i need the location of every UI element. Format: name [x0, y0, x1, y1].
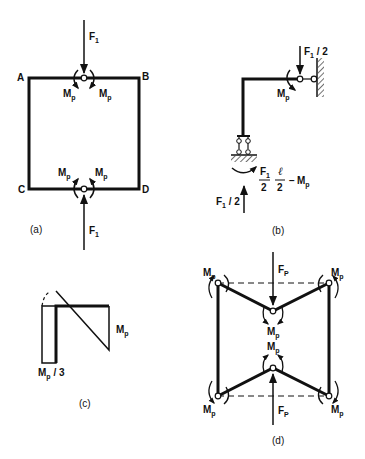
moment-label-bottom-right-d: Mp [331, 404, 344, 418]
moment-label-b: Mp [277, 88, 290, 102]
moment-label-center-bottom-d: Mp [267, 341, 280, 355]
label-mp-c: Mp [116, 324, 129, 338]
svg-text:F1: F1 [260, 166, 270, 179]
caption-c: (c) [79, 398, 91, 409]
corner-arc [42, 292, 50, 306]
moment-label-center-top-d: Mp [267, 326, 280, 340]
load-top-label: F1 [89, 31, 99, 44]
hinge-top-right [326, 280, 332, 286]
frame-c [56, 306, 109, 363]
beam-moment-diagram [56, 291, 109, 350]
hinge-bottom-right [326, 393, 332, 399]
node-c-label: C [18, 184, 25, 195]
moment-label-bottom-left-d: Mp [203, 404, 216, 418]
svg-text:2: 2 [261, 182, 267, 193]
column-moment-diagram [42, 306, 56, 363]
load-label-bottom-d: FP [278, 405, 289, 418]
base-moment-expression: F1 2 ℓ 2 − Mp [259, 165, 310, 193]
caption-b: (b) [272, 225, 284, 236]
roller-wall [311, 76, 317, 82]
moment-label-bottom-left: Mp [58, 167, 71, 181]
load-bottom-label: F1 [89, 225, 99, 238]
hinge-top-center [270, 308, 276, 314]
panel-c: Mp Mp / 3 (c) [38, 291, 129, 409]
wall-hatch [318, 58, 324, 97]
hinge-bottom-left [215, 393, 221, 399]
figure-canvas: F1 Mp Mp A B C D Mp Mp F1 (a) F1 / 2 [0, 0, 365, 459]
reaction-label-b: F1 / 2 [216, 196, 240, 209]
node-a-label: A [17, 72, 24, 83]
load-label-top-d: FP [278, 264, 289, 277]
moment-label-top-left: Mp [63, 88, 76, 102]
hinge-bottom-center [270, 365, 276, 371]
panel-d: FP FP Mp Mp Mp Mp Mp Mp (d) [203, 252, 344, 446]
sliding-support [231, 136, 257, 162]
hinge-bottom [81, 186, 87, 192]
panel-b: F1 / 2 Mp F1 2 ℓ 2 − Mp [216, 46, 328, 236]
moment-label-bottom-right: Mp [95, 167, 108, 181]
svg-text:−: − [289, 175, 295, 186]
panel-a: F1 Mp Mp A B C D Mp Mp F1 (a) [17, 20, 149, 250]
label-mp3-c: Mp / 3 [38, 367, 65, 381]
hinge-top [81, 75, 87, 81]
svg-text:Mp: Mp [297, 175, 310, 189]
hinge-b [297, 76, 303, 82]
svg-text:2: 2 [277, 182, 283, 193]
caption-a: (a) [30, 224, 42, 235]
node-b-label: B [142, 71, 149, 82]
caption-d: (d) [272, 435, 284, 446]
load-label-b: F1 / 2 [304, 46, 328, 59]
frame-abcd [29, 78, 139, 189]
moment-label-top-right-d: Mp [331, 267, 344, 281]
moment-label-top-left-d: Mp [203, 267, 216, 281]
base-moment-arrow [232, 167, 256, 173]
node-d-label: D [142, 184, 149, 195]
svg-text:ℓ: ℓ [278, 165, 283, 177]
moment-label-top-right: Mp [99, 88, 112, 102]
hinge-top-left [215, 280, 221, 286]
